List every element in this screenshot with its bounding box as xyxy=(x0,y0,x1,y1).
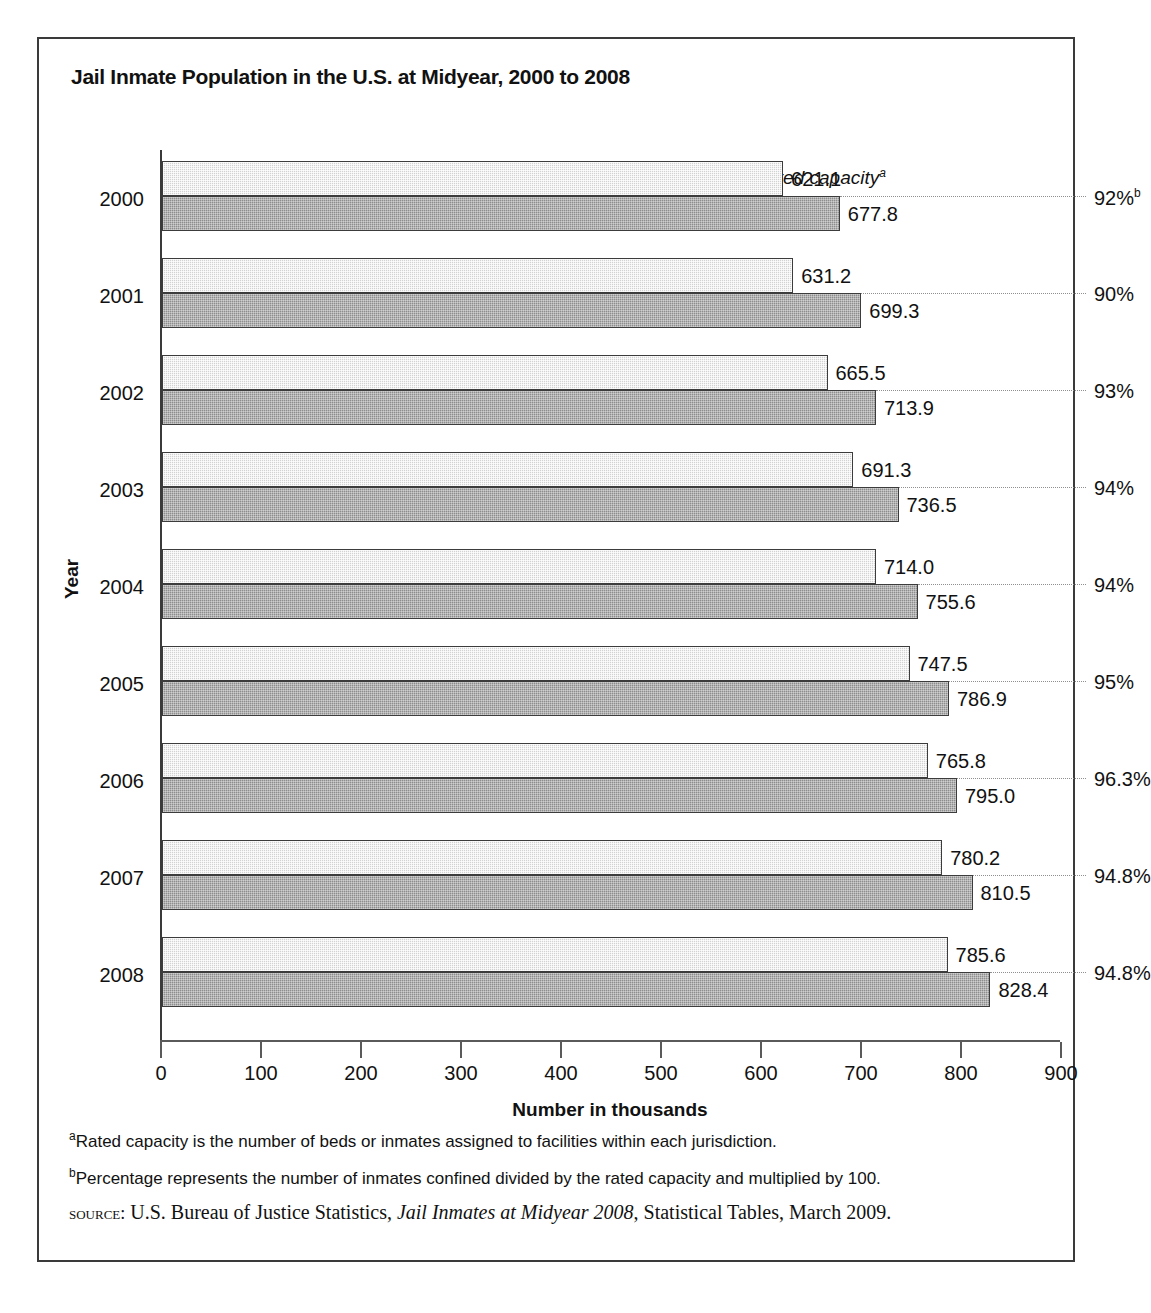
bar-value-label-rated-capacity: 736.5 xyxy=(907,495,957,515)
footnote-a: aRated capacity is the number of beds or… xyxy=(69,1129,1049,1152)
bar-rated-capacity xyxy=(162,487,899,522)
bar-value-label-number-of-inmates: 665.5 xyxy=(836,363,886,383)
y-axis-title: Year xyxy=(61,559,83,599)
x-axis-tick-label-600: 600 xyxy=(744,1062,777,1085)
footnotes: aRated capacity is the number of beds or… xyxy=(69,1129,1049,1203)
x-axis-tick xyxy=(960,1042,962,1058)
capacity-percent-label: 93% xyxy=(1094,381,1134,401)
bar-value-label-number-of-inmates: 785.6 xyxy=(956,945,1006,965)
leader-line xyxy=(918,584,1086,585)
x-axis-tick xyxy=(460,1042,462,1058)
bar-rated-capacity xyxy=(162,875,973,910)
leader-line xyxy=(899,487,1087,488)
y-axis-tick-label-2006: 2006 xyxy=(74,771,144,791)
capacity-percent-label: 94.8% xyxy=(1094,963,1151,983)
footnote-marker-b: b xyxy=(69,1166,76,1180)
x-axis-tick-label-700: 700 xyxy=(844,1062,877,1085)
source-before: U.S. Bureau of Justice Statistics, xyxy=(125,1201,397,1223)
figure-frame: Jail Inmate Population in the U.S. at Mi… xyxy=(37,37,1075,1262)
x-axis-tick xyxy=(1060,1042,1062,1058)
bar-number-of-inmates xyxy=(162,161,783,196)
leader-line xyxy=(861,293,1086,294)
bar-rated-capacity xyxy=(162,972,990,1007)
footnote-marker-a: a xyxy=(69,1129,76,1143)
x-axis-tick xyxy=(560,1042,562,1058)
y-axis-tick-label-2007: 2007 xyxy=(74,868,144,888)
leader-line xyxy=(949,681,1086,682)
leader-line xyxy=(957,778,1086,779)
bar-value-label-number-of-inmates: 765.8 xyxy=(936,751,986,771)
capacity-percent-label: 94% xyxy=(1094,575,1134,595)
footnote-b: bPercentage represents the number of inm… xyxy=(69,1166,1049,1189)
bar-value-label-number-of-inmates: 691.3 xyxy=(861,460,911,480)
bar-rated-capacity xyxy=(162,778,957,813)
bar-value-label-number-of-inmates: 714.0 xyxy=(884,557,934,577)
bar-rated-capacity xyxy=(162,584,918,619)
bar-value-label-rated-capacity: 755.6 xyxy=(926,592,976,612)
x-axis-tick-label-200: 200 xyxy=(344,1062,377,1085)
footnote-marker-b-ref: b xyxy=(1134,186,1141,200)
bar-number-of-inmates xyxy=(162,743,928,778)
bar-value-label-rated-capacity: 677.8 xyxy=(848,204,898,224)
bar-number-of-inmates xyxy=(162,355,828,390)
x-axis-title: Number in thousands xyxy=(160,1099,1060,1121)
bar-number-of-inmates xyxy=(162,840,942,875)
bar-number-of-inmates xyxy=(162,549,876,584)
x-axis-tick-label-300: 300 xyxy=(444,1062,477,1085)
source-publication-title: Jail Inmates at Midyear 2008 xyxy=(397,1201,634,1223)
x-axis-tick xyxy=(760,1042,762,1058)
y-axis-tick-label-2002: 2002 xyxy=(74,383,144,403)
x-axis-tick-label-800: 800 xyxy=(944,1062,977,1085)
bar-value-label-number-of-inmates: 747.5 xyxy=(918,654,968,674)
x-axis: 0100200300400500600700800900 xyxy=(160,1040,1062,1100)
x-axis-tick-label-100: 100 xyxy=(244,1062,277,1085)
bar-rated-capacity xyxy=(162,390,876,425)
x-axis-tick-label-900: 900 xyxy=(1044,1062,1077,1085)
x-axis-tick-label-0: 0 xyxy=(155,1062,166,1085)
capacity-percent-label: 95% xyxy=(1094,672,1134,692)
bar-number-of-inmates xyxy=(162,258,793,293)
capacity-percent-label: 92%b xyxy=(1094,187,1141,208)
bar-number-of-inmates xyxy=(162,452,853,487)
capacity-percent-label: 94% xyxy=(1094,478,1134,498)
x-axis-line xyxy=(160,1040,1060,1042)
bar-value-label-rated-capacity: 828.4 xyxy=(998,980,1048,1000)
y-axis-tick-label-2008: 2008 xyxy=(74,965,144,985)
capacity-percent-label: 90% xyxy=(1094,284,1134,304)
y-axis-tick-label-2004: 2004 xyxy=(74,577,144,597)
capacity-percent-label: 94.8% xyxy=(1094,866,1151,886)
page-title: Jail Inmate Population in the U.S. at Mi… xyxy=(71,65,630,89)
y-axis-tick-label-2005: 2005 xyxy=(74,674,144,694)
footnote-b-text: Percentage represents the number of inma… xyxy=(76,1169,881,1188)
bar-rated-capacity xyxy=(162,681,949,716)
x-axis-tick xyxy=(160,1042,162,1058)
bar-number-of-inmates xyxy=(162,646,910,681)
leader-line xyxy=(876,390,1086,391)
x-axis-tick-label-500: 500 xyxy=(644,1062,677,1085)
bar-value-label-number-of-inmates: 780.2 xyxy=(950,848,1000,868)
y-axis-tick-label-2003: 2003 xyxy=(74,480,144,500)
x-axis-tick xyxy=(860,1042,862,1058)
bar-value-label-rated-capacity: 795.0 xyxy=(965,786,1015,806)
leader-line xyxy=(840,196,1086,197)
source-after: , Statistical Tables, March 2009. xyxy=(634,1201,892,1223)
leader-line xyxy=(990,972,1086,973)
footnote-a-text: Rated capacity is the number of beds or … xyxy=(76,1132,777,1151)
source-line: source: U.S. Bureau of Justice Statistic… xyxy=(69,1201,891,1224)
x-axis-tick xyxy=(260,1042,262,1058)
bar-number-of-inmates xyxy=(162,937,948,972)
y-axis-tick-label-2000: 2000 xyxy=(74,189,144,209)
bar-value-label-rated-capacity: 810.5 xyxy=(981,883,1031,903)
bar-value-label-number-of-inmates: 621.1 xyxy=(791,169,841,189)
x-axis-tick xyxy=(660,1042,662,1058)
leader-line xyxy=(973,875,1087,876)
x-axis-tick xyxy=(360,1042,362,1058)
x-axis-tick-label-400: 400 xyxy=(544,1062,577,1085)
source-keyword: source: xyxy=(69,1203,125,1223)
capacity-percent-label: 96.3% xyxy=(1094,769,1151,789)
bar-value-label-rated-capacity: 786.9 xyxy=(957,689,1007,709)
y-axis-tick-label-2001: 2001 xyxy=(74,286,144,306)
bar-rated-capacity xyxy=(162,196,840,231)
bar-rated-capacity xyxy=(162,293,861,328)
bar-value-label-rated-capacity: 713.9 xyxy=(884,398,934,418)
